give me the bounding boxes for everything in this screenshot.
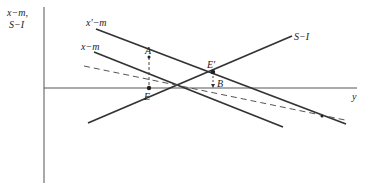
s-minus-i-label: S−I (294, 32, 309, 42)
arrow-head-icon (211, 84, 215, 88)
point-end (321, 115, 324, 118)
point-e (147, 86, 151, 90)
point-e-label: E (144, 92, 150, 102)
point-b-label: B (217, 79, 223, 89)
point-e-prime-label: E′ (207, 60, 215, 70)
y-axis-label-line1: x−m, (7, 8, 28, 18)
point-a-label: A (145, 46, 151, 56)
y-axis-label-line2: S−I (9, 20, 24, 30)
point-e-prime (211, 70, 215, 74)
diagram-canvas: x−m, S−I y x′−m x−m S−I A E E′ B (0, 0, 377, 190)
x-axis-label: y (352, 92, 356, 102)
diagram-svg (0, 0, 377, 190)
x-minus-m-label: x−m (81, 42, 99, 52)
s-minus-i-line (88, 36, 292, 123)
x-prime-minus-m-label: x′−m (86, 18, 107, 28)
